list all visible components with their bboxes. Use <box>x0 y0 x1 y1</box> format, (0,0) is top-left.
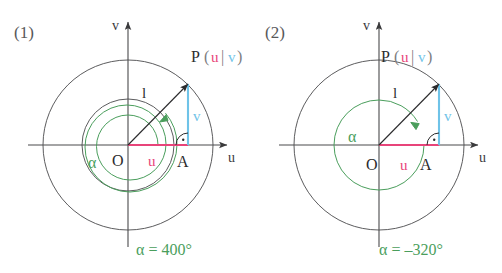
u-axis-label: u <box>479 150 486 165</box>
angle-arrow-icon <box>411 122 419 129</box>
point-coord-v: v <box>418 49 426 65</box>
v-component-label: v <box>193 108 201 124</box>
foot-point-label: A <box>420 156 432 173</box>
point-p-label: P <box>381 48 390 65</box>
point-coord-v: v <box>228 49 236 65</box>
radius-vector <box>379 84 439 145</box>
point-paren-close: ) <box>427 48 432 66</box>
right-angle-arc <box>176 133 188 145</box>
right-angle-dot-icon <box>433 139 435 141</box>
radius-vector <box>128 84 188 145</box>
foot-point-label: A <box>177 153 189 170</box>
v-component-label: v <box>444 108 452 124</box>
point-coord-u: u <box>211 49 219 65</box>
point-paren-open: ( <box>204 48 209 66</box>
right-angle-arc <box>427 133 439 145</box>
point-coord-u: u <box>401 49 409 65</box>
origin-label: O <box>366 156 378 173</box>
angle-label: α <box>88 154 97 171</box>
u-component-label: u <box>148 153 156 169</box>
panel-2-group: (2) v u l v α O <box>265 18 486 258</box>
point-paren-open: ( <box>394 48 399 66</box>
figure-container: (1) v u l <box>0 0 502 273</box>
radius-label: l <box>393 85 397 101</box>
panel-1-diagram: (1) v u l <box>0 0 502 273</box>
point-paren-close: ) <box>237 48 242 66</box>
angle-label: α <box>348 128 357 145</box>
point-paren-bar: | <box>221 48 224 66</box>
origin-label: O <box>112 152 124 169</box>
u-axis-label: u <box>228 150 235 165</box>
point-p-label: P <box>191 48 200 65</box>
panel-2-number: (2) <box>265 23 285 42</box>
v-axis-label: v <box>112 18 119 33</box>
panel-1-group: (1) v u l <box>14 18 242 258</box>
v-axis-label: v <box>363 18 370 33</box>
radius-label: l <box>142 85 146 101</box>
point-paren-bar: | <box>411 48 414 66</box>
u-component-label: u <box>400 157 408 173</box>
angle-value-caption: α = –320° <box>379 241 443 258</box>
right-angle-dot-icon <box>182 139 184 141</box>
panel-1-number: (1) <box>14 23 34 42</box>
angle-value-caption: α = 400° <box>136 241 192 258</box>
